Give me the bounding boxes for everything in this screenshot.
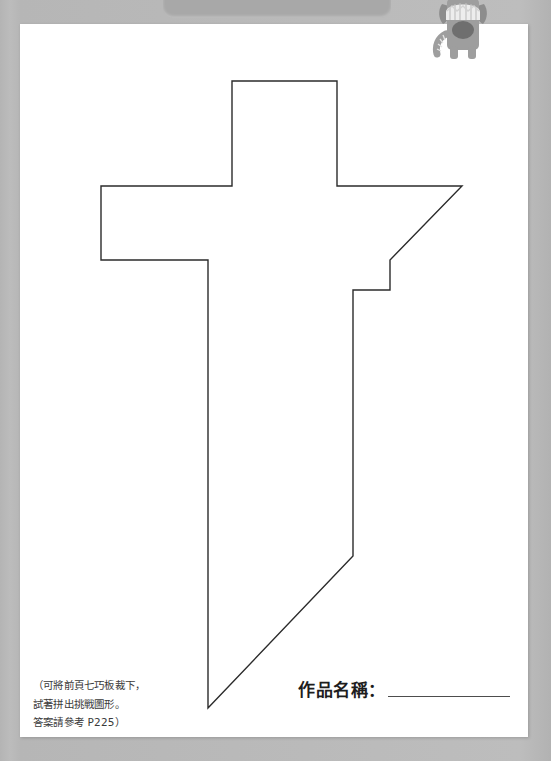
artwork-title-write-line[interactable] <box>388 696 510 697</box>
instruction-line-2: 試著拼出挑戰圖形。 <box>33 695 223 714</box>
top-section-tab[interactable] <box>163 0 391 18</box>
instruction-line-3: 答案請參考 P225） <box>33 713 223 732</box>
artwork-title-label: 作品名稱： <box>298 680 386 700</box>
mascot-right-leg <box>468 46 476 59</box>
instruction-line-1: （可將前頁七巧板裁下， <box>33 676 223 695</box>
instruction-note: （可將前頁七巧板裁下， 試著拼出挑戰圖形。 答案請參考 P225） <box>33 676 223 732</box>
mascot-mouth-icon <box>452 21 474 39</box>
mascot-left-leg <box>450 46 458 59</box>
artwork-title-field[interactable]: 作品名稱： <box>298 680 510 700</box>
grey-cat-monster-mascot <box>432 0 494 66</box>
worksheet-page <box>20 24 528 737</box>
mascot-tail <box>436 34 446 54</box>
